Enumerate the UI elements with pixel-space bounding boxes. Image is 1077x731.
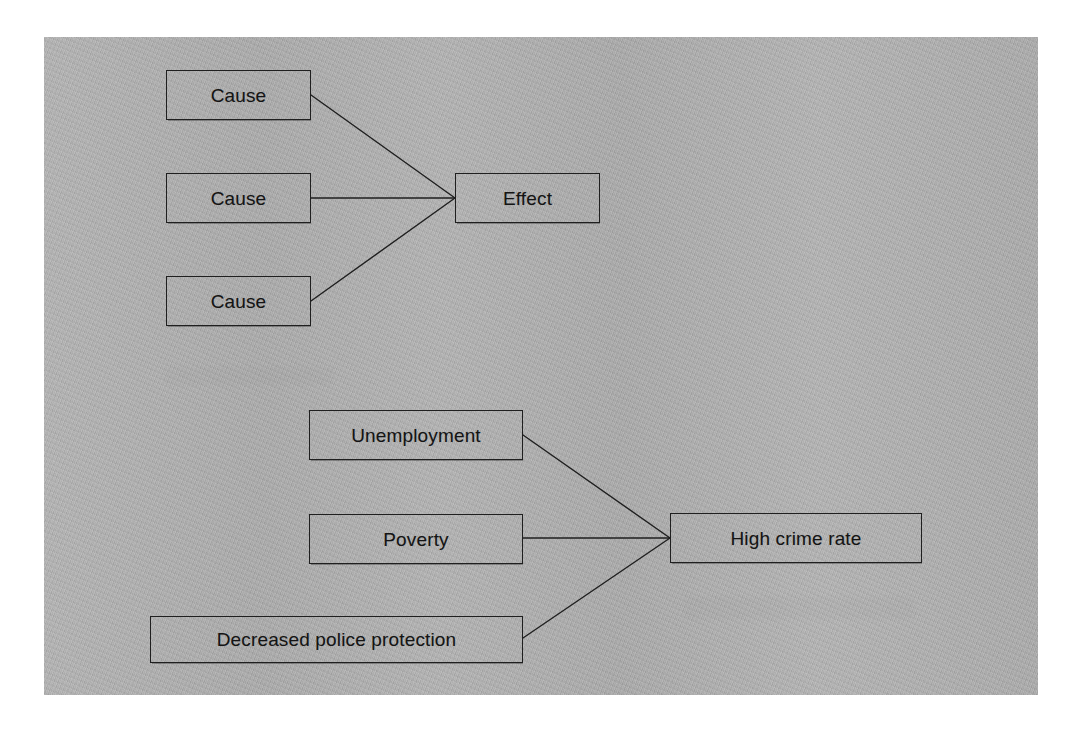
diagram-artboard: Cause Cause Cause Effect Unemployment Po… <box>44 37 1038 695</box>
connector-unemployment-crime <box>523 435 670 538</box>
scan-artifact <box>164 367 334 385</box>
node-high-crime-rate[interactable]: High crime rate <box>670 513 922 563</box>
node-cause-3[interactable]: Cause <box>166 276 311 326</box>
node-label: Effect <box>503 188 552 207</box>
scan-artifact <box>684 597 914 619</box>
connector-cause1-effect <box>311 95 455 198</box>
node-poverty[interactable]: Poverty <box>309 514 523 564</box>
node-label: Poverty <box>383 529 448 548</box>
node-label: Cause <box>211 85 267 104</box>
node-cause-2[interactable]: Cause <box>166 173 311 223</box>
connector-lines <box>44 37 1038 695</box>
node-cause-1[interactable]: Cause <box>166 70 311 120</box>
node-label: Decreased police protection <box>217 630 457 649</box>
node-effect[interactable]: Effect <box>455 173 600 223</box>
connector-police-crime <box>523 538 670 638</box>
node-label: Cause <box>211 291 267 310</box>
connector-cause3-effect <box>311 198 455 301</box>
node-label: High crime rate <box>730 528 861 547</box>
node-unemployment[interactable]: Unemployment <box>309 410 523 460</box>
node-decreased-police-protection[interactable]: Decreased police protection <box>150 616 523 663</box>
node-label: Cause <box>211 188 267 207</box>
node-label: Unemployment <box>351 425 481 444</box>
